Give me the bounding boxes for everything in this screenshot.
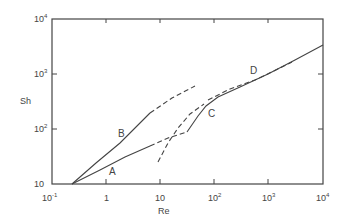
x-tick-label: 103 — [262, 192, 276, 203]
x-tick-label: 102 — [208, 192, 222, 203]
curve-label-c: C — [208, 108, 215, 119]
curve-a-solid — [72, 146, 150, 184]
y-ticks — [52, 74, 323, 129]
curve-a-dashed — [150, 132, 187, 146]
curve-label-b: B — [118, 128, 125, 139]
x-tick-label: 10-1 — [42, 192, 58, 203]
plot-frame — [52, 19, 323, 184]
x-tick-label: 104 — [316, 192, 330, 203]
y-tick-label: 10 — [34, 179, 44, 189]
x-ticks — [106, 19, 268, 184]
y-axis-title: Sh — [20, 96, 31, 106]
y-tick-label: 104 — [34, 13, 48, 24]
y-tick-label: 103 — [34, 68, 48, 79]
x-tick-label: 10 — [155, 193, 165, 203]
curve-label-d: D — [250, 65, 257, 76]
y-tick-label: 102 — [34, 123, 48, 134]
x-tick-label: 1 — [104, 193, 109, 203]
curve-steep-dashed — [158, 104, 204, 162]
chart: 10-1 1 10 102 103 104 10 102 103 104 Sh … — [0, 0, 349, 224]
curve-label-a: A — [109, 166, 116, 177]
curve-b-dashed — [150, 86, 195, 113]
x-axis-title: Re — [158, 206, 170, 216]
